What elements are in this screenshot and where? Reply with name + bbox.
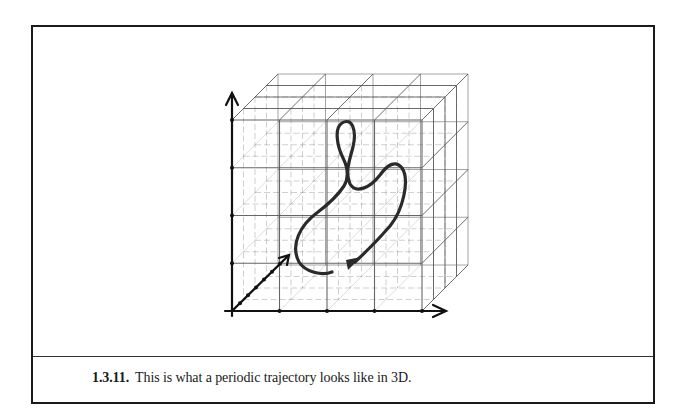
axes [225,93,446,317]
cube-trajectory-diagram [0,0,682,409]
